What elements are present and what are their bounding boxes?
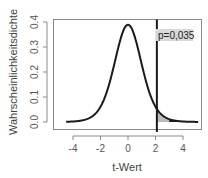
x-tick-3: 2 <box>153 136 159 154</box>
x-axis: -4 -2 0 2 4 <box>69 136 187 154</box>
x-tick-label: 2 <box>153 143 159 154</box>
y-tick-3: 0.3 <box>29 40 47 54</box>
x-tick-0: -4 <box>69 136 78 154</box>
y-tick-label: 0.1 <box>29 90 40 104</box>
t-distribution-chart: p=0,035 0.0 0.1 0.2 0.3 0.4 -4 -2 0 2 4 … <box>0 0 208 178</box>
x-tick-label: 0 <box>125 143 131 154</box>
y-tick-label: 0.4 <box>29 15 40 29</box>
x-tick-1: -2 <box>96 136 105 154</box>
x-tick-4: 4 <box>180 136 186 154</box>
x-tick-label: -2 <box>96 143 105 154</box>
y-tick-label: 0.0 <box>29 115 40 129</box>
x-tick-label: 4 <box>180 143 186 154</box>
x-tick-2: 0 <box>125 136 131 154</box>
y-tick-2: 0.2 <box>29 65 47 79</box>
x-tick-label: -4 <box>69 143 78 154</box>
y-axis-title: Wahrscheinlichkeitsdichte <box>7 9 19 135</box>
y-tick-1: 0.1 <box>29 90 47 104</box>
y-axis: 0.0 0.1 0.2 0.3 0.4 <box>29 15 47 129</box>
y-tick-0: 0.0 <box>29 115 47 129</box>
y-tick-label: 0.2 <box>29 65 40 79</box>
x-axis-title: t-Wert <box>112 161 142 173</box>
p-value-annotation: p=0,035 <box>156 29 195 41</box>
y-tick-4: 0.4 <box>29 15 47 29</box>
y-tick-label: 0.3 <box>29 40 40 54</box>
p-value-label: p=0,035 <box>158 30 195 41</box>
